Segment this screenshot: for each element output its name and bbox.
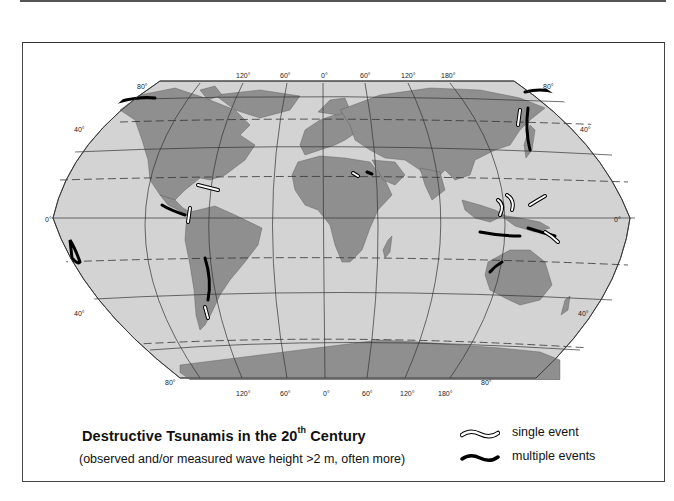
legend-subtitle: (observed and/or measured wave height >2… <box>79 452 405 466</box>
svg-text:60°: 60° <box>362 390 373 397</box>
svg-text:180°: 180° <box>441 72 456 79</box>
svg-text:40°: 40° <box>578 310 589 317</box>
svg-text:0°: 0° <box>45 216 52 223</box>
svg-text:120°: 120° <box>236 72 251 79</box>
svg-text:120°: 120° <box>236 390 251 397</box>
longitude-labels-bottom: 120° 60° 0° 60° 120° 180° <box>236 390 453 397</box>
svg-text:40°: 40° <box>74 126 85 133</box>
svg-text:120°: 120° <box>400 390 415 397</box>
svg-text:40°: 40° <box>580 126 591 133</box>
svg-text:120°: 120° <box>401 72 416 79</box>
svg-text:0°: 0° <box>614 216 621 223</box>
svg-text:0°: 0° <box>323 390 330 397</box>
svg-text:40°: 40° <box>74 310 85 317</box>
svg-text:80°: 80° <box>543 83 554 90</box>
svg-text:80°: 80° <box>137 83 148 90</box>
multiple-events-wave-icon <box>460 451 500 465</box>
svg-text:180°: 180° <box>438 390 453 397</box>
legend-title: Destructive Tsunamis in the 20th Century <box>82 428 366 444</box>
svg-text:80°: 80° <box>165 379 176 386</box>
svg-text:60°: 60° <box>280 72 291 79</box>
svg-text:80°: 80° <box>481 379 492 386</box>
svg-text:0°: 0° <box>321 72 328 79</box>
single-event-wave-icon <box>460 427 500 441</box>
longitude-labels-top: 120° 60° 0° 60° 120° 180° <box>236 72 456 79</box>
svg-text:60°: 60° <box>360 72 371 79</box>
svg-text:60°: 60° <box>280 390 291 397</box>
